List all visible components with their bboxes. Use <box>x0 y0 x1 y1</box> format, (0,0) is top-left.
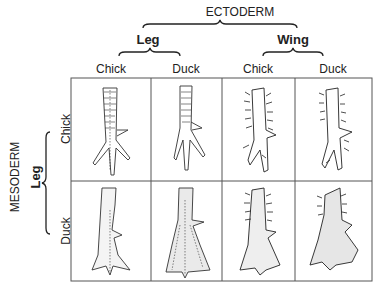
cell-duck-duck-leg-foot <box>166 188 210 278</box>
cell-duck-chick-leg-foot <box>92 188 130 275</box>
cell-chick-duck-leg-foot <box>174 86 205 170</box>
cell-chick-wing-duck-foot <box>319 88 352 170</box>
mesoderm-brace <box>42 132 50 234</box>
cell-duck-wing-chick-foot <box>240 188 280 275</box>
cell-chick-chick-leg-foot <box>93 88 130 175</box>
cell-duck-wing-duck-foot <box>310 188 358 270</box>
ectoderm-leg-brace <box>119 48 180 56</box>
cell-chick-wing-chick-foot <box>243 88 276 172</box>
diagram-graphics <box>0 0 381 292</box>
ectoderm-wing-brace <box>263 48 323 56</box>
ectoderm-brace <box>143 20 297 28</box>
